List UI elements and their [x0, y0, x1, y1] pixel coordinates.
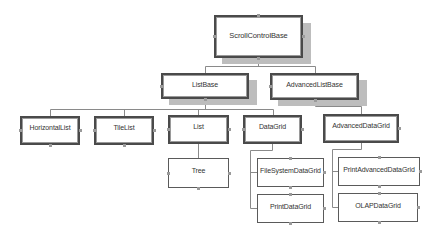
- port-marker: [213, 35, 216, 38]
- port-marker: [93, 129, 96, 132]
- node-label: FileSystemDataGrid: [260, 159, 321, 174]
- class-hierarchy-diagram: ScrollControlBase ListBase AdvancedListB…: [0, 0, 435, 236]
- node-label: TileList: [113, 118, 134, 131]
- port-marker: [49, 144, 52, 147]
- node-label: Tree: [192, 159, 206, 174]
- node-file-system-data-grid[interactable]: FileSystemDataGrid: [257, 158, 324, 187]
- port-marker: [378, 221, 381, 224]
- port-marker: [302, 35, 305, 38]
- port-marker: [289, 157, 292, 160]
- port-marker: [323, 171, 326, 174]
- node-label: AdvancedListBase: [286, 75, 342, 88]
- node-advanced-data-grid[interactable]: AdvancedDataGrid: [323, 114, 399, 143]
- node-label: ListBase: [192, 75, 218, 88]
- node-olap-data-grid[interactable]: OLAPDataGrid: [338, 193, 418, 222]
- node-advanced-list-base[interactable]: AdvancedListBase: [270, 73, 359, 100]
- port-marker: [228, 128, 231, 131]
- node-tree[interactable]: Tree: [168, 158, 229, 188]
- port-marker: [79, 129, 82, 132]
- node-label: List: [193, 117, 204, 130]
- port-marker: [419, 170, 422, 173]
- node-label: AdvancedDataGrid: [332, 116, 390, 129]
- port-marker: [378, 156, 381, 159]
- port-marker: [19, 129, 22, 132]
- port-marker: [197, 187, 200, 190]
- port-marker: [289, 186, 292, 189]
- port-marker: [378, 185, 381, 188]
- port-marker: [228, 172, 231, 175]
- node-print-advanced-data-grid[interactable]: PrintAdvancedDataGrid: [338, 157, 420, 186]
- node-horizontal-list[interactable]: HorizontalList: [20, 116, 80, 145]
- port-marker: [398, 127, 401, 130]
- port-marker: [204, 98, 207, 101]
- node-label: HorizontalList: [29, 118, 70, 131]
- port-marker: [242, 128, 245, 131]
- port-marker: [378, 192, 381, 195]
- port-marker: [301, 128, 304, 131]
- port-marker: [289, 222, 292, 225]
- node-tile-list[interactable]: TileList: [94, 116, 154, 145]
- port-marker: [323, 207, 326, 210]
- port-marker: [257, 14, 260, 17]
- node-label: OLAPDataGrid: [355, 194, 401, 209]
- port-marker: [314, 99, 317, 102]
- node-label: DataGrid: [259, 117, 286, 130]
- port-marker: [269, 85, 272, 88]
- node-label: PrintDataGrid: [270, 195, 311, 210]
- port-marker: [123, 144, 126, 147]
- port-marker: [167, 128, 170, 131]
- port-marker: [167, 172, 170, 175]
- port-marker: [257, 57, 260, 60]
- node-data-grid[interactable]: DataGrid: [243, 115, 302, 144]
- node-print-data-grid[interactable]: PrintDataGrid: [257, 194, 324, 223]
- node-list-base[interactable]: ListBase: [161, 73, 249, 99]
- node-label: ScrollControlBase: [229, 17, 287, 40]
- port-marker: [289, 193, 292, 196]
- port-marker: [160, 85, 163, 88]
- node-label: PrintAdvancedDataGrid: [343, 158, 414, 173]
- port-marker: [417, 206, 420, 209]
- node-list[interactable]: List: [168, 115, 229, 144]
- node-scroll-control-base[interactable]: ScrollControlBase: [214, 15, 303, 58]
- port-marker: [153, 129, 156, 132]
